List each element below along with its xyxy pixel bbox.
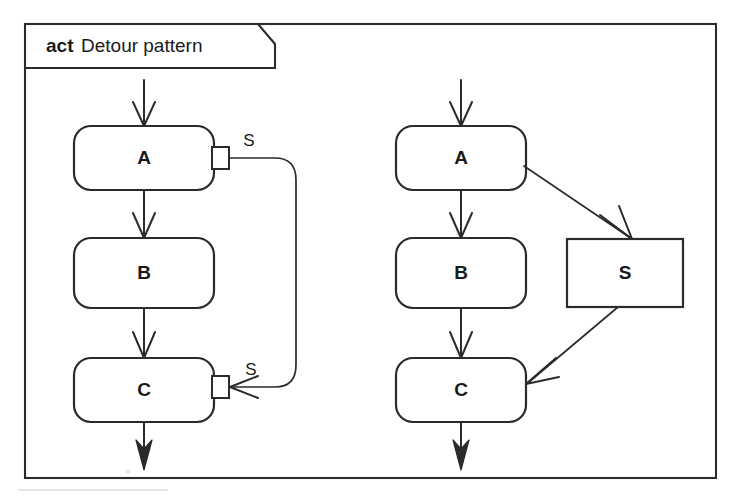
frame-kind-keyword: act [46,35,74,56]
scan-artifacts [18,470,168,491]
activity-node-c-right-label: C [454,379,468,400]
edge-a-to-b-right [450,190,472,238]
edge-c-to-end-left [136,422,152,470]
activity-node-c-left-label: C [137,379,151,400]
edge-b-to-c-right [450,308,472,358]
edge-a-to-s-right [524,166,632,239]
output-pin-a-left[interactable]: S [212,131,255,169]
edge-detour-object-flow-left [229,158,296,398]
activity-node-c-left[interactable]: C [74,358,214,422]
variant-object-node-notation: A B C [396,80,683,470]
activity-node-a-right[interactable]: A [396,126,526,190]
frame-title-text: Detour pattern [81,35,202,56]
edge-start-to-a-left [133,80,155,126]
object-node-s-right-label: S [619,262,632,283]
activity-node-a-right-label: A [454,147,468,168]
activity-node-b-right[interactable]: B [396,238,526,308]
activity-node-b-left[interactable]: B [74,238,214,308]
edge-b-to-c-left [133,308,155,358]
activity-node-a-left[interactable]: A [74,126,214,190]
activity-node-c-right[interactable]: C [396,358,526,422]
edge-s-to-c-right [526,307,618,384]
frame-heading: act Detour pattern [46,35,202,56]
edge-start-to-a-right [450,80,472,126]
activity-node-b-left-label: B [137,262,151,283]
diagram-canvas: act Detour pattern A S [0,0,734,498]
variant-pin-notation: A S B [74,80,296,470]
edge-a-to-b-left [133,190,155,238]
activity-node-a-left-label: A [137,147,151,168]
edge-c-to-end-right [453,422,469,470]
object-node-s-right[interactable]: S [567,239,683,307]
output-pin-a-left-label: S [243,131,254,150]
activity-node-b-right-label: B [454,262,468,283]
